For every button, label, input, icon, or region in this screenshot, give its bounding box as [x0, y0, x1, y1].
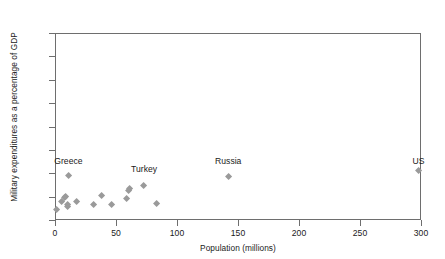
y-tick-mark [49, 33, 55, 34]
plot-area [55, 33, 421, 220]
x-tick-mark [299, 220, 300, 226]
point-annotation-label: Greece [54, 156, 82, 166]
x-tick-mark [116, 220, 117, 226]
scatter-chart: Military expenditures as a percentage of… [0, 0, 445, 259]
y-tick-mark [49, 173, 55, 174]
x-tick-mark [360, 220, 361, 226]
point-annotation-label: US [413, 156, 425, 166]
x-tick-label: 0 [35, 228, 75, 238]
x-tick-mark [238, 220, 239, 226]
x-axis-title: Population (millions) [55, 243, 421, 253]
x-tick-label: 50 [96, 228, 136, 238]
y-tick-mark [49, 56, 55, 57]
x-tick-mark [177, 220, 178, 226]
x-tick-label: 100 [157, 228, 197, 238]
x-tick-label: 250 [340, 228, 380, 238]
y-tick-mark [49, 197, 55, 198]
point-annotation-label: Russia [215, 156, 241, 166]
y-axis-title: Military expenditures as a percentage of… [9, 17, 19, 217]
y-tick-mark [49, 103, 55, 104]
y-tick-mark [49, 127, 55, 128]
x-tick-mark [55, 220, 56, 226]
y-tick-mark [49, 80, 55, 81]
point-annotation-label: Turkey [131, 164, 157, 174]
x-tick-label: 150 [218, 228, 258, 238]
y-tick-mark [49, 150, 55, 151]
x-tick-label: 300 [401, 228, 441, 238]
x-tick-label: 200 [279, 228, 319, 238]
x-tick-mark [421, 220, 422, 226]
